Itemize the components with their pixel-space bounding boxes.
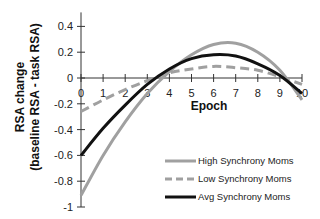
x-tick-label: 6 bbox=[211, 87, 217, 99]
y-tick-label: -0.8 bbox=[54, 175, 73, 187]
y-tick-label: -0.2 bbox=[54, 98, 73, 110]
y-tick-label: -0.4 bbox=[54, 124, 73, 136]
x-tick-label: 7 bbox=[233, 87, 239, 99]
y-tick-label: -0.6 bbox=[54, 149, 73, 161]
x-axis-title: Epoch bbox=[191, 99, 228, 113]
y-axis-title-line2: (baseline RSA - task RSA) bbox=[28, 23, 42, 171]
y-axis-title: RSA change (baseline RSA - task RSA) bbox=[13, 23, 42, 171]
x-tick-label: 5 bbox=[188, 87, 194, 99]
x-tick-label: 4 bbox=[166, 87, 172, 99]
x-tick-label: 8 bbox=[255, 87, 261, 99]
legend-label: High Synchrony Moms bbox=[198, 155, 294, 166]
legend-label: Avg Synchrony Moms bbox=[198, 191, 290, 202]
y-tick-label: 0 bbox=[67, 72, 73, 84]
x-tick-label: 9 bbox=[277, 87, 283, 99]
legend: High Synchrony MomsLow Synchrony MomsAvg… bbox=[165, 155, 294, 202]
y-tick-label: -1 bbox=[63, 201, 73, 213]
x-tick-label: 1 bbox=[100, 87, 106, 99]
chart: RSA change (baseline RSA - task RSA) Epo… bbox=[0, 0, 320, 219]
legend-label: Low Synchrony Moms bbox=[198, 173, 292, 184]
y-axis-title-line1: RSA change bbox=[13, 62, 27, 133]
y-tick-label: 0.2 bbox=[58, 46, 73, 58]
x-tick-label: 0 bbox=[78, 87, 84, 99]
y-tick-label: 0.4 bbox=[58, 20, 73, 32]
